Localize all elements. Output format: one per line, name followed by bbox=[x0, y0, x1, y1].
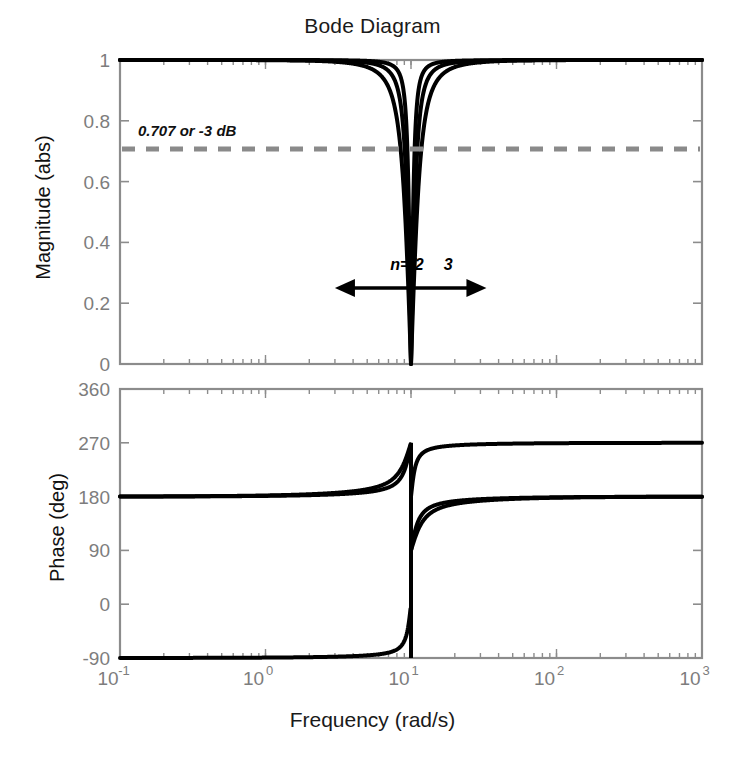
phase-ytick-label: 270 bbox=[78, 433, 110, 454]
magnitude-ytick-label: 0.4 bbox=[84, 232, 111, 253]
y-tick-labels: 00.20.40.60.81-90090180270360 bbox=[78, 50, 110, 669]
frequency-tick-label: 103 bbox=[679, 663, 709, 689]
phase-axis-label: Phase (deg) bbox=[46, 438, 69, 618]
phase-curve bbox=[411, 497, 702, 551]
series-label-2: 2 bbox=[414, 256, 424, 273]
svg-text:3: 3 bbox=[702, 663, 709, 678]
phase-ytick-label: 180 bbox=[78, 487, 110, 508]
chart-title: Bode Diagram bbox=[0, 14, 745, 38]
magnitude-axis-label: Magnitude (abs) bbox=[32, 103, 55, 313]
phase-curve bbox=[120, 444, 411, 496]
series-label-3: 3 bbox=[444, 256, 453, 273]
svg-text:10: 10 bbox=[679, 668, 700, 689]
svg-text:1: 1 bbox=[411, 663, 418, 678]
phase-ytick-label: 0 bbox=[99, 594, 110, 615]
magnitude-ytick-label: 0.2 bbox=[84, 293, 110, 314]
frequency-tick-label: 100 bbox=[243, 663, 273, 689]
phase-curve bbox=[411, 443, 702, 497]
magnitude-ytick-label: 1 bbox=[99, 50, 110, 71]
svg-text:10: 10 bbox=[388, 668, 409, 689]
magnitude-ytick-label: 0.6 bbox=[84, 172, 110, 193]
magnitude-ytick-label: 0 bbox=[99, 354, 110, 375]
magnitude-curves bbox=[120, 60, 702, 364]
plot-canvas: 0.707 or -3 dBn=123 10-1100101102103 00.… bbox=[0, 0, 745, 768]
svg-text:-1: -1 bbox=[118, 663, 130, 678]
frequency-tick-label: 101 bbox=[388, 663, 418, 689]
magnitude-ytick-label: 0.8 bbox=[84, 111, 110, 132]
threshold-label: 0.707 or -3 dB bbox=[138, 122, 237, 139]
svg-text:0: 0 bbox=[266, 663, 273, 678]
svg-text:10: 10 bbox=[534, 668, 555, 689]
frequency-tick-label: 102 bbox=[534, 663, 564, 689]
phase-curves bbox=[120, 443, 702, 658]
svg-text:10: 10 bbox=[243, 668, 264, 689]
phase-ytick-label: 90 bbox=[89, 540, 110, 561]
magnitude-curve bbox=[120, 60, 702, 364]
frequency-tick-labels: 10-1100101102103 bbox=[97, 663, 709, 689]
magnitude-annotations: 0.707 or -3 dBn=123 bbox=[122, 122, 700, 297]
bode-diagram-figure: Bode Diagram Magnitude (abs) Phase (deg)… bbox=[0, 0, 745, 768]
svg-text:2: 2 bbox=[557, 663, 564, 678]
phase-ytick-label: -90 bbox=[83, 648, 110, 669]
phase-ytick-label: 360 bbox=[78, 379, 110, 400]
svg-text:10: 10 bbox=[97, 668, 118, 689]
frequency-axis-label: Frequency (rad/s) bbox=[0, 708, 745, 732]
